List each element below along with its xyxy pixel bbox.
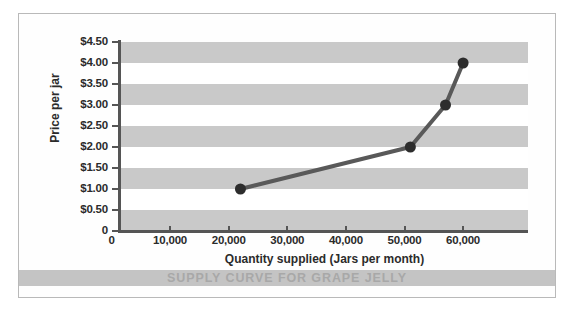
y-tick-label: $2.50 — [80, 119, 108, 131]
y-tick-mark — [112, 125, 118, 127]
grid-band — [121, 168, 528, 189]
x-axis-title: Quantity supplied (Jars per month) — [121, 252, 528, 266]
x-tick-mark — [462, 226, 464, 232]
supply-curve-chart: 0$0.50$1.00$1.50$2.00$2.50$3.00$3.50$4.0… — [18, 13, 556, 298]
grid-band — [121, 210, 528, 231]
y-tick-mark — [112, 209, 118, 211]
x-tick-mark — [228, 226, 230, 232]
grid-band — [121, 42, 528, 63]
y-tick-label: $3.50 — [80, 77, 108, 89]
plot-area — [121, 42, 528, 231]
y-tick-mark — [112, 167, 118, 169]
x-tick-mark — [345, 226, 347, 232]
y-tick-mark — [112, 62, 118, 64]
x-tick-mark — [286, 226, 288, 232]
scan-bleed-text — [150, 1, 550, 10]
y-tick-label: $1.00 — [80, 182, 108, 194]
y-tick-mark — [112, 230, 118, 232]
y-axis-title: Price per jar — [48, 43, 62, 173]
x-tick-label: 60,000 — [423, 234, 503, 246]
y-tick-label: $2.00 — [80, 140, 108, 152]
x-tick-mark — [404, 226, 406, 232]
y-tick-mark — [112, 83, 118, 85]
y-tick-label: $0.50 — [80, 203, 108, 215]
y-axis-line — [118, 40, 121, 233]
y-tick-label: $4.50 — [80, 35, 108, 47]
figure-root: 0$0.50$1.00$1.50$2.00$2.50$3.00$3.50$4.0… — [0, 0, 573, 316]
y-tick-mark — [112, 104, 118, 106]
figure-caption: SUPPLY CURVE FOR GRAPE JELLY — [19, 270, 555, 286]
y-tick-mark — [112, 41, 118, 43]
grid-band — [121, 84, 528, 105]
y-tick-label: $4.00 — [80, 56, 108, 68]
x-axis-line — [118, 230, 528, 233]
y-tick-label: $1.50 — [80, 161, 108, 173]
grid-band — [121, 126, 528, 147]
x-tick-mark — [169, 226, 171, 232]
y-tick-mark — [112, 188, 118, 190]
y-tick-label: $3.00 — [80, 98, 108, 110]
y-tick-mark — [112, 146, 118, 148]
